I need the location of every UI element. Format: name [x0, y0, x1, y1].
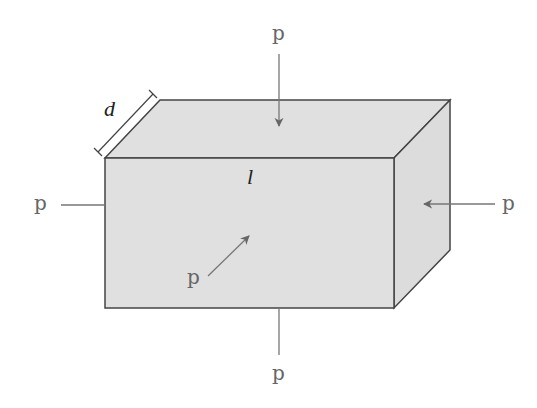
block-diagram: d l p p p p p [0, 0, 537, 408]
pressure-label-top: p [272, 21, 285, 45]
depth-label: d [104, 96, 116, 121]
top-face [105, 100, 450, 158]
length-label: l [247, 164, 253, 189]
pressure-label-left: p [34, 191, 47, 215]
pressure-label-bottom: p [272, 361, 285, 385]
pressure-label-right: p [502, 191, 515, 215]
pressure-label-front: p [187, 265, 200, 289]
